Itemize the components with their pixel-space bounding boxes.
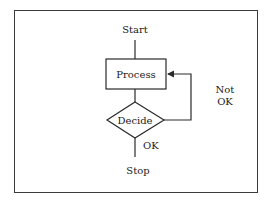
flowchart: Start Process Decide Not OK OK Stop: [0, 0, 269, 203]
start-label: Start: [122, 24, 148, 35]
decide-label: Decide: [117, 115, 152, 126]
ok-label: OK: [143, 140, 159, 151]
stop-label: Stop: [126, 165, 149, 176]
not-ok-label-line1: Not: [216, 84, 235, 95]
not-ok-label-line2: OK: [217, 96, 233, 107]
edge-not-ok-loop: [164, 74, 191, 120]
process-label: Process: [116, 69, 155, 80]
